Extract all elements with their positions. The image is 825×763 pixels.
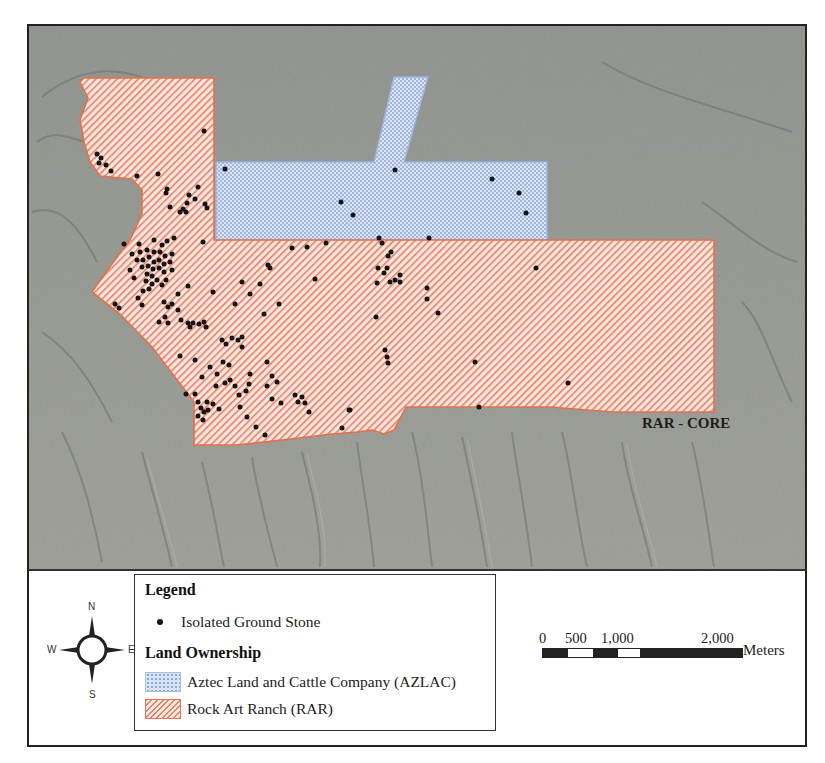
legend-rar-label: Rock Art Ranch (RAR) [187,700,333,718]
azlac-swatch-icon [145,672,181,692]
scale-tick-500: 500 [565,630,587,647]
legend-item-azlac: Aztec Land and Cattle Company (AZLAC) [145,672,456,692]
rar-swatch-icon [145,699,181,719]
region-label-rar-core: RAR - CORE [642,415,730,431]
scale-tick-0: 0 [539,630,546,647]
scale-bar-graphic [542,648,743,658]
legend: Legend Isolated Ground Stone Land Owners… [134,574,496,731]
legend-section-title: Land Ownership [145,644,261,662]
scale-tick-2000: 2,000 [701,630,734,647]
scale-unit-label: Meters [743,642,785,659]
legend-point-label: Isolated Ground Stone [181,613,320,631]
north-arrow: N S E W [47,596,137,706]
legend-title: Legend [145,581,196,599]
legend-azlac-label: Aztec Land and Cattle Company (AZLAC) [187,673,456,691]
compass-west-label: W [47,644,56,655]
legend-item-ground-stone: Isolated Ground Stone [145,613,320,631]
scale-tick-1000: 1,000 [601,630,634,647]
map-frame: RAR - CORE N S E W Legend Isolated Groun… [27,24,807,747]
scale-bar: 0 500 1,000 2,000 Meters [539,630,799,670]
map-svg: RAR - CORE [29,26,805,569]
map-canvas[interactable]: RAR - CORE [29,26,805,571]
legend-item-rar: Rock Art Ranch (RAR) [145,699,333,719]
compass-south-label: S [89,689,96,700]
point-symbol-icon [157,619,163,625]
compass-north-label: N [88,601,95,612]
